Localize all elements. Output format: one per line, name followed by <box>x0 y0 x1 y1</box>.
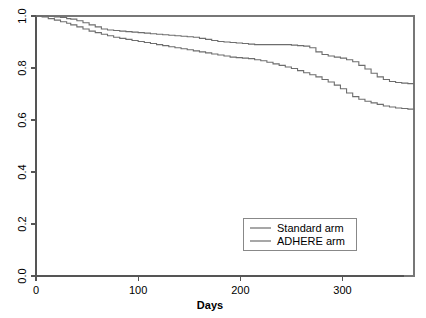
y-tick-label: 0.6 <box>16 112 28 127</box>
axis-tick-labels: 0.00.20.40.60.81.00100200300Days <box>16 8 352 311</box>
survival-curves <box>36 16 414 110</box>
chart-legend[interactable]: Standard armADHERE arm <box>243 218 356 250</box>
x-tick-label: 100 <box>129 284 147 296</box>
y-tick-label: 0.8 <box>16 60 28 75</box>
y-tick-label: 0.2 <box>16 216 28 231</box>
curve-adhere-arm <box>36 16 414 110</box>
plot-border <box>36 16 414 276</box>
plot-frame <box>36 16 414 276</box>
chart-canvas: 0.00.20.40.60.81.00100200300Days Standar… <box>0 0 426 318</box>
y-tick-label: 1.0 <box>16 8 28 23</box>
legend-label-standard-arm[interactable]: Standard arm <box>277 222 344 234</box>
curve-standard-arm <box>36 16 414 84</box>
x-tick-label: 0 <box>33 284 39 296</box>
survival-plot-figure: 0.00.20.40.60.81.00100200300Days Standar… <box>0 0 426 318</box>
x-tick-label: 300 <box>333 284 351 296</box>
y-tick-label: 0.0 <box>16 268 28 283</box>
y-tick-label: 0.4 <box>16 164 28 179</box>
legend-label-adhere-arm[interactable]: ADHERE arm <box>277 235 345 247</box>
x-tick-label: 200 <box>231 284 249 296</box>
x-axis-title: Days <box>197 299 223 311</box>
